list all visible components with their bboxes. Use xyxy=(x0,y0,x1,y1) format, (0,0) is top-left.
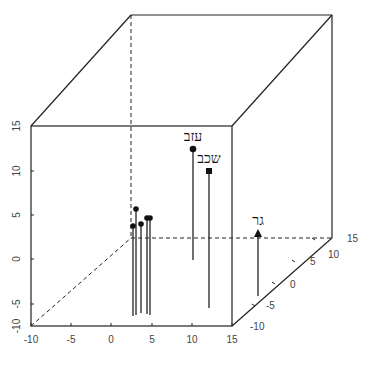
triangle-marker-gar xyxy=(254,229,262,237)
z-tick-label: 5 xyxy=(11,212,22,218)
z-tick-label: 0 xyxy=(11,256,22,262)
top-left-depth-edge xyxy=(31,15,131,126)
y-tick-label: 0 xyxy=(290,279,296,290)
z-tick-label: 15 xyxy=(11,120,22,132)
z-tick-label: -5 xyxy=(11,299,22,308)
y-tick-label: -5 xyxy=(266,300,275,311)
y-tick-label: 5 xyxy=(310,256,316,267)
point-label-azav: עזב xyxy=(184,128,203,144)
y-tick-label-15: 15 xyxy=(347,233,359,244)
square-marker-shachav xyxy=(206,168,212,174)
z-tick-label: 10 xyxy=(11,165,22,177)
circle-marker xyxy=(147,215,153,221)
x-tick-labels: -10 -5 0 5 10 15 xyxy=(24,334,238,345)
top-right-depth-edge xyxy=(232,15,332,126)
circle-marker xyxy=(130,223,136,229)
circle-marker-azav xyxy=(190,146,197,153)
x-tick-label: 5 xyxy=(149,334,155,345)
point-label-shachav: שכב xyxy=(197,150,221,166)
x-tick-label: -5 xyxy=(67,334,76,345)
point-labels: עזב שכב גר xyxy=(184,128,264,228)
y-tick-label: -10 xyxy=(250,321,265,332)
z-tick-label: -10 xyxy=(11,318,22,333)
left-floor-depth-edge xyxy=(31,238,131,326)
drop-lines xyxy=(133,149,258,316)
x-tick-label: -10 xyxy=(24,334,39,345)
x-tick-label: 0 xyxy=(108,334,114,345)
circle-marker xyxy=(133,206,139,212)
circle-marker xyxy=(138,221,144,227)
box-hidden-edges xyxy=(31,15,332,326)
x-tick-label: 10 xyxy=(186,334,198,345)
y-tick-label-10: 10 xyxy=(328,249,340,260)
scatter3d-plot: -10 -5 0 5 10 15 15 10 5 0 -5 -10 -10 -5… xyxy=(0,0,371,385)
x-tick-label: 15 xyxy=(226,334,238,345)
box-visible-edges xyxy=(31,15,332,326)
point-label-gar: גר xyxy=(252,212,264,228)
y-tick-labels: -10 -5 0 0 5 10 10 10 10 15 xyxy=(250,233,359,332)
y-axis xyxy=(252,238,315,306)
z-tick-labels: 15 10 5 0 -5 -10 xyxy=(11,120,22,333)
bottom-right-depth-edge xyxy=(232,238,332,326)
